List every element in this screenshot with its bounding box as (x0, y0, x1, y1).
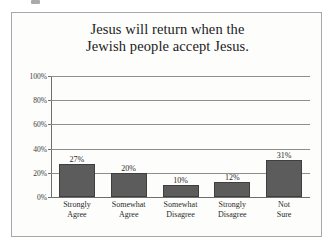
y-tick-label-100: 100% (30, 72, 48, 81)
gridline-0 (51, 197, 310, 198)
x-category-label-line: Agree (103, 210, 155, 220)
bar-value-label: 12% (225, 173, 240, 182)
chart-figure: Jesus will return when the Jewish people… (11, 12, 322, 237)
bar: 10% (163, 185, 199, 197)
bar: 27% (59, 164, 95, 197)
x-category-label: NotSure (258, 200, 310, 220)
page-scan-artifact (31, 0, 40, 4)
bar-value-label: 10% (173, 176, 188, 185)
plot-area: 0%20%40%60%80%100% 27%20%10%12%31% Stron… (51, 76, 310, 197)
x-category-label: SomewhatDisagree (155, 200, 207, 220)
bar-value-label: 27% (70, 155, 85, 164)
y-tick-mark-60 (48, 124, 51, 125)
x-category-label-line: Strongly (206, 200, 258, 210)
bar: 31% (266, 160, 302, 198)
x-category-label: StronglyDisagree (206, 200, 258, 220)
y-axis-line (51, 76, 52, 197)
y-tick-label-0: 0% (37, 193, 47, 202)
x-category-label-line: Disagree (155, 210, 207, 220)
y-tick-mark-0 (48, 197, 51, 198)
bar-value-label: 31% (277, 151, 292, 160)
y-tick-mark-80 (48, 100, 51, 101)
y-tick-label-40: 40% (33, 144, 47, 153)
x-category-label-line: Somewhat (103, 200, 155, 210)
x-category-label-line: Agree (51, 210, 103, 220)
gridline-80 (51, 100, 310, 101)
y-tick-mark-20 (48, 173, 51, 174)
y-tick-label-80: 80% (33, 96, 47, 105)
x-category-label-line: Disagree (206, 210, 258, 220)
bar: 20% (111, 173, 147, 197)
x-category-label-line: Sure (258, 210, 310, 220)
y-tick-label-60: 60% (33, 120, 47, 129)
x-category-label-line: Strongly (51, 200, 103, 210)
y-tick-label-20: 20% (33, 168, 47, 177)
gridline-100 (51, 76, 310, 77)
bar-value-label: 20% (121, 164, 136, 173)
gridline-60 (51, 124, 310, 125)
y-tick-mark-40 (48, 149, 51, 150)
x-category-label: SomewhatAgree (103, 200, 155, 220)
chart-title-line-1: Jesus will return when the (12, 21, 323, 38)
chart-title: Jesus will return when the Jewish people… (12, 21, 323, 54)
x-category-label: StronglyAgree (51, 200, 103, 220)
x-category-label-line: Somewhat (155, 200, 207, 210)
x-category-label-line: Not (258, 200, 310, 210)
y-tick-mark-100 (48, 76, 51, 77)
gridline-40 (51, 149, 310, 150)
bar: 12% (214, 182, 250, 197)
chart-title-line-2: Jewish people accept Jesus. (12, 38, 323, 55)
